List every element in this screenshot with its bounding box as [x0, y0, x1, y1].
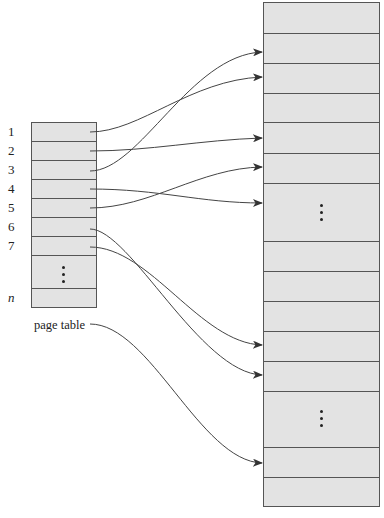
arrow-page-3 [90, 52, 262, 171]
arrow-page-2 [90, 138, 262, 151]
mapping-arrows [0, 0, 384, 518]
arrow-page-7 [90, 247, 262, 345]
arrow-page-n [90, 324, 262, 463]
arrow-page-6 [90, 229, 262, 375]
arrow-page-4 [90, 189, 262, 203]
